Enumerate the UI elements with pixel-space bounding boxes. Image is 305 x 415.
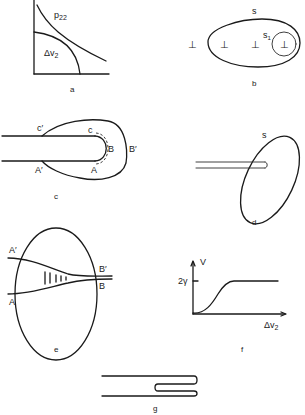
- panel-e-label-a-prime: A′: [9, 245, 17, 255]
- panel-e: A′ A B′ B e: [8, 228, 112, 360]
- panel-e-cohesive-zone-lines: [45, 272, 66, 284]
- panel-c-label-c-prime: c′: [37, 123, 44, 133]
- panel-b-caption: b: [252, 79, 257, 88]
- panel-f-curve: [193, 281, 278, 313]
- panel-b-s1-label: s1: [263, 30, 272, 41]
- panel-c-label-b-prime: B′: [129, 144, 137, 154]
- panel-e-upper-surface: [8, 258, 112, 276]
- panel-e-label-a: A: [9, 297, 15, 307]
- figure-canvas: p22 Δv2 a ⊥ ⊥ ⊥ ⊥ s s1 b c′ c B B′ A A′ …: [0, 0, 305, 415]
- panel-b-dislocation-2: ⊥: [251, 39, 260, 50]
- panel-c-label-a: A: [91, 165, 97, 175]
- panel-c-label-c: c: [88, 125, 93, 135]
- panel-g-caption: g: [153, 404, 157, 413]
- panel-c-crack-tip: [95, 136, 106, 161]
- panel-b-dislocation-1: ⊥: [220, 39, 229, 50]
- panel-c-label-b: B: [108, 144, 114, 154]
- panel-d-s-label: s: [262, 130, 267, 140]
- panel-f: V 2γ Δv2 f: [178, 257, 286, 354]
- panel-f-caption: f: [241, 345, 244, 354]
- panel-e-caption: e: [54, 345, 59, 354]
- panel-d: s d: [196, 127, 305, 232]
- panel-e-loop: [15, 228, 97, 360]
- panel-d-caption: d: [252, 218, 256, 227]
- panel-c-caption: c: [54, 192, 58, 201]
- panel-b-s-label: s: [252, 6, 257, 16]
- panel-b-dislocation-outside: ⊥: [188, 39, 197, 50]
- panel-f-y-axis-label: V: [200, 257, 206, 267]
- panel-d-surface-ellipse: [228, 127, 305, 232]
- panel-e-label-b-prime: B′: [99, 264, 107, 274]
- panel-a-dv2-label: Δv2: [44, 48, 59, 59]
- panel-f-y-tick-label: 2γ: [178, 276, 188, 286]
- panel-e-label-b: B: [99, 281, 105, 291]
- panel-f-x-axis-label: Δv2: [264, 320, 279, 331]
- panel-g-folded-crack: [102, 376, 197, 396]
- panel-b-dislocation-3: ⊥: [280, 39, 289, 50]
- panel-c: c′ c B B′ A A′ c: [2, 120, 137, 201]
- panel-g: g: [102, 376, 197, 413]
- panel-c-label-a-prime: A′: [35, 165, 43, 175]
- panel-b: ⊥ ⊥ ⊥ ⊥ s s1 b: [188, 6, 300, 88]
- panel-a-p22-label: p22: [54, 10, 67, 21]
- panel-a: p22 Δv2 a: [34, 0, 109, 94]
- panel-d-crack-tip: [265, 162, 267, 168]
- panel-a-caption: a: [70, 85, 75, 94]
